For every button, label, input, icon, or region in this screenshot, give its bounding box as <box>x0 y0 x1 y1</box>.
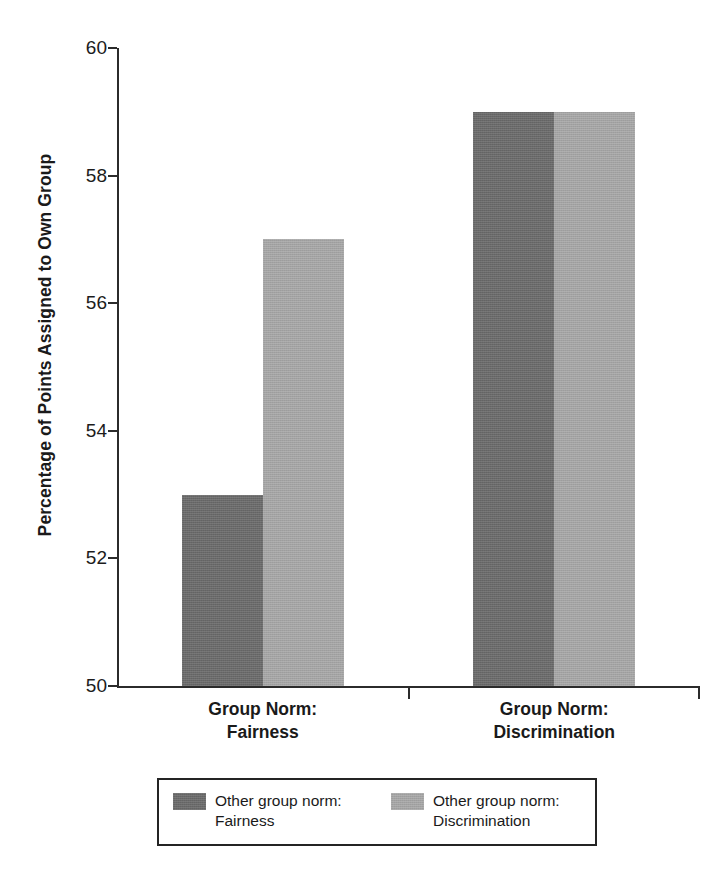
y-tick-mark <box>108 430 117 432</box>
y-tick-mark <box>108 175 117 177</box>
category-label-2: Group Norm:Discrimination <box>409 698 701 758</box>
chart-legend: Other group norm:FairnessOther group nor… <box>157 778 597 846</box>
bar-2-series-1 <box>473 112 554 686</box>
legend-swatch-1 <box>173 793 206 810</box>
bar-2-series-2 <box>554 112 635 686</box>
y-tick-label: 52 <box>61 547 107 569</box>
x-axis-category-labels: Group Norm:FairnessGroup Norm:Discrimina… <box>117 698 700 758</box>
y-tick-label: 56 <box>61 292 107 314</box>
legend-label-2: Other group norm:Discrimination <box>433 791 560 831</box>
y-tick-mark <box>108 302 117 304</box>
legend-label-line2: Fairness <box>215 811 342 831</box>
y-tick-mark <box>108 685 117 687</box>
legend-label-line1: Other group norm: <box>215 791 342 811</box>
bar-chart-figure: Percentage of Points Assigned to Own Gro… <box>0 0 715 882</box>
category-label-line2: Fairness <box>117 721 409 744</box>
category-label-line1: Group Norm: <box>409 698 701 721</box>
legend-label-line2: Discrimination <box>433 811 560 831</box>
y-tick-mark <box>108 557 117 559</box>
legend-entry-1[interactable]: Other group norm:Fairness <box>159 791 377 831</box>
y-tick-label: 58 <box>61 165 107 187</box>
plot-area <box>117 48 700 686</box>
legend-swatch-2 <box>391 793 424 810</box>
category-label-1: Group Norm:Fairness <box>117 698 409 758</box>
y-tick-label: 60 <box>61 37 107 59</box>
legend-label-1: Other group norm:Fairness <box>215 791 342 831</box>
y-tick-label: 50 <box>61 675 107 697</box>
category-label-line1: Group Norm: <box>117 698 409 721</box>
y-tick-label: 54 <box>61 420 107 442</box>
legend-label-line1: Other group norm: <box>433 791 560 811</box>
bar-1-series-1 <box>182 495 263 686</box>
category-label-line2: Discrimination <box>409 721 701 744</box>
y-axis-tick-labels: 505254565860 <box>55 0 107 882</box>
bar-1-series-2 <box>263 239 344 686</box>
y-tick-mark <box>108 47 117 49</box>
legend-entry-2[interactable]: Other group norm:Discrimination <box>377 791 595 831</box>
